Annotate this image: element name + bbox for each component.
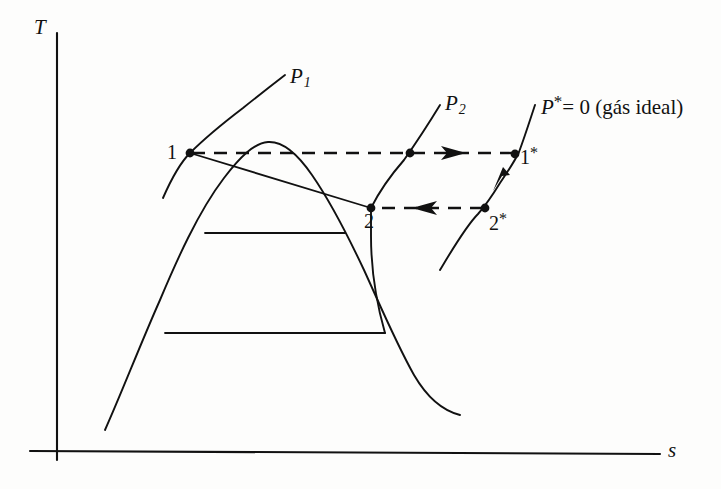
isobar-pstar-curve [440,105,535,270]
state-label-2star: 2* [489,211,507,233]
isobar-p1-label-sub: 1 [303,75,311,90]
saturation-dome-group [105,142,460,430]
isobar-pstar-label-rest: = 0 (gás ideal) [562,95,683,119]
state-label-2-text: 2 [364,210,374,232]
intersection-dot-p2-top-dashed [406,149,415,158]
isobar-pstar-group [440,105,535,270]
state-label-1star: 1* [520,145,538,167]
state-label-2: 2 [364,211,374,231]
isobar-p2-label-sub: 2 [458,102,466,117]
state-label-1star-text: 1 [520,146,530,168]
state-label-1-text: 1 [167,141,177,163]
isobar-pstar-label-var: P [541,95,554,119]
isobar-p2-curve [371,105,440,333]
process-line-group [190,153,371,208]
process-line-1-to-2 [190,153,371,208]
isobar-p1-label-var: P [290,64,303,88]
isobar-p1-label: P1 [290,66,311,90]
state-label-2star-star: * [499,210,507,227]
isobar-pstar-label: P*= 0 (gás ideal) [541,93,683,118]
x-axis-label: s [668,440,676,461]
internal-isobar-segments [165,233,385,333]
state-label-1: 1 [167,142,177,162]
isobar-p2-group [371,105,440,333]
isobar-p2-label-var: P [445,91,458,115]
state-point-dot-1star [511,150,520,159]
state-label-2star-text: 2 [489,212,499,234]
dashed-path-2star-to-2-group [373,201,483,215]
isobar-p2-label: P2 [445,93,466,117]
state-point-dot-1 [186,149,195,158]
x-axis-line [30,451,660,454]
saturation-dome-curve [105,142,460,430]
y-axis-label: T [34,17,46,38]
ts-diagram-figure: T s P1 P2 P*= 0 (gás ideal) 1 2 1* 2* [0,0,721,489]
state-label-1star-star: * [530,144,538,161]
diagram-canvas [0,0,721,489]
